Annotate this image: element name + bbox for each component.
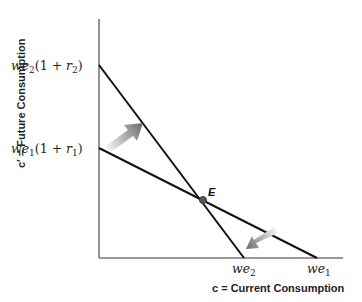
arrow-up-shift-icon [106,123,143,152]
equilibrium-point [199,196,206,203]
point-label: E [208,186,216,198]
budget-constraint-diagram: E we2(1 + r2) we1(1 + r1) we2 we1 c = Cu… [0,0,362,302]
budget-line-1 [99,148,317,258]
x-tick-label-1: we1 [307,261,331,278]
x-axis-label: c = Current Consumption [212,282,345,294]
y-axis-label: c′ = Future Consumption [15,38,27,168]
budget-line-2 [99,65,244,258]
x-tick-label-2: we2 [232,261,256,278]
